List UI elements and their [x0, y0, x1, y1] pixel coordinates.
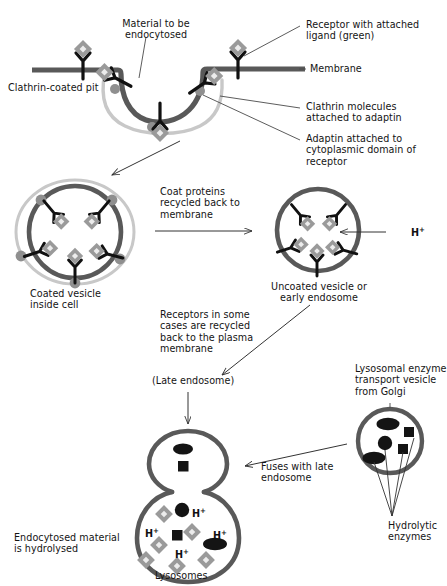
label-proton-lysosome: H+ [175, 547, 189, 560]
label-hydrolytic-enzymes: Hydrolytic enzymes [388, 520, 437, 543]
enzyme-circle [175, 503, 189, 517]
leader-line-adaptin [203, 95, 300, 140]
label-membrane: Membrane [310, 63, 362, 74]
label-coated-vesicle: Coated vesicle inside cell [30, 288, 101, 311]
label-lysosomal-enzyme-vesicle: Lysosomal enzyme transport vesicle from … [355, 363, 445, 397]
leader-line-material [139, 37, 146, 78]
label-proton-lysosome: H+ [213, 528, 227, 541]
label-uncoated-vesicle: Uncoated vesicle or early endosome [265, 281, 373, 304]
lysosome-group [137, 431, 347, 582]
label-clathrin-molecules: Clathrin molecules attached to adaptin [306, 101, 442, 124]
label-lysosomes: Lysosomes [155, 570, 208, 581]
receptor-with-ligand [74, 40, 92, 79]
enzyme-square [404, 427, 414, 437]
label-endocytosed-material: Endocytosed material is hydrolysed [14, 532, 120, 555]
enzyme-square [178, 461, 189, 472]
arrow-pit-to-vesicle [112, 141, 180, 175]
enzyme-ellipse [173, 443, 193, 454]
coated-vesicle-group [16, 180, 134, 288]
receptor-with-ligand [229, 39, 247, 78]
leader-line-clathrin [220, 96, 300, 108]
leader-line-receptor [244, 26, 300, 56]
golgi-transport-vesicle-group [358, 403, 422, 516]
label-clathrin-coated-pit: Clathrin-coated pit [8, 82, 99, 93]
ligand-diamond [155, 505, 173, 523]
enzyme-square [172, 530, 183, 541]
enzyme-ellipse [377, 418, 400, 430]
adaptin-dot [110, 84, 120, 94]
label-proton-influx: H+ [411, 225, 425, 238]
uncoated-vesicle-group [274, 189, 386, 276]
label-fuses-with-late-endosome: Fuses with late endosome [261, 461, 333, 484]
label-proton-lysosome: H+ [145, 526, 159, 539]
label-receptors-recycled: Receptors in some cases are recycled bac… [160, 309, 253, 355]
label-adaptin-attached: Adaptin attached to cytoplasmic domain o… [306, 133, 442, 167]
ligand-diamond [322, 216, 337, 231]
plasma-membrane [32, 69, 305, 122]
enzyme-circle [378, 436, 392, 450]
label-coat-proteins-recycled: Coat proteins recycled back to membrane [160, 186, 240, 220]
label-proton-lysosome: H+ [192, 506, 206, 519]
ligand-diamond [197, 551, 215, 569]
label-late-endosome: (Late endosome) [152, 375, 234, 386]
ligand-diamond [300, 216, 315, 231]
label-material-to-be-endocytosed: Material to be endocytosed [108, 18, 204, 41]
clathrin-coated-pit-group [32, 26, 306, 175]
label-receptor-with-ligand: Receptor with attached ligand (green) [306, 19, 442, 42]
ligand-diamond [183, 523, 201, 541]
